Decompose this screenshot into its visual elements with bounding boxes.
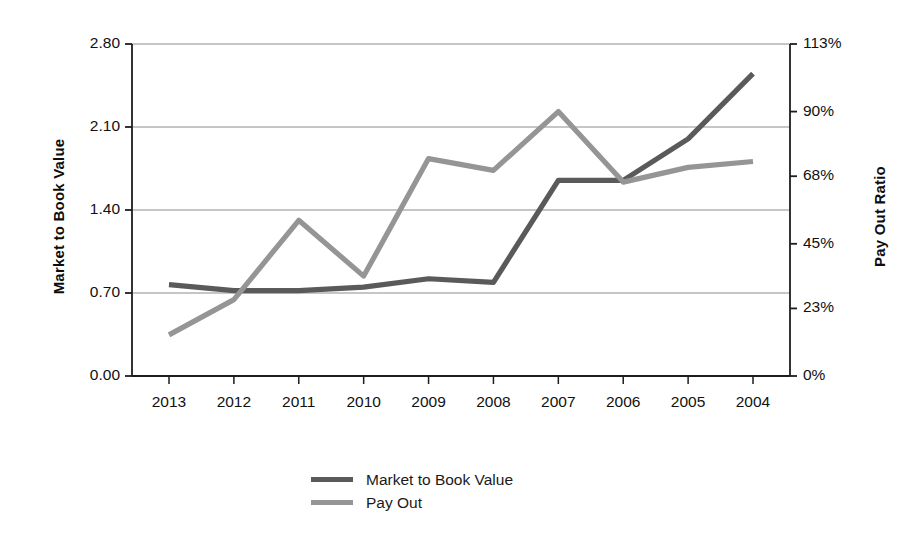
x-axis-tick-label: 2008 [463,393,523,411]
series-line-market-to-book-value [169,74,753,291]
y-axis-left-tick-label: 2.10 [58,117,120,135]
y-axis-right-tick-label: 45% [803,234,865,252]
x-axis-tick-label: 2013 [139,393,199,411]
y-axis-right-tick-label: 113% [803,34,865,52]
legend-swatch-icon [311,477,353,482]
y-axis-left-tick-label: 0.00 [58,366,120,384]
x-axis-tick-label: 2009 [399,393,459,411]
x-axis-tick-label: 2005 [658,393,718,411]
legend-item[interactable]: Market to Book Value [311,468,513,491]
chart-container: Market to Book Value Pay Out Ratio 0.000… [0,0,908,549]
y-axis-left-tick-label: 2.80 [58,34,120,52]
x-axis-tick-label: 2012 [204,393,264,411]
x-axis-tick-label: 2010 [334,393,394,411]
series-line-pay-out [169,112,753,335]
plot-area [0,0,908,549]
y-axis-left-tick-label: 0.70 [58,283,120,301]
x-axis-tick-label: 2004 [723,393,783,411]
legend-swatch-icon [311,500,353,505]
chart-legend: Market to Book ValuePay Out [311,468,513,514]
legend-item[interactable]: Pay Out [311,491,513,514]
x-axis-tick-label: 2011 [269,393,329,411]
y-axis-left-tick-label: 1.40 [58,200,120,218]
y-axis-right-tick-label: 23% [803,298,865,316]
legend-label: Market to Book Value [366,471,513,489]
y-axis-right-tick-label: 90% [803,102,865,120]
x-axis-tick-label: 2006 [593,393,653,411]
y-axis-right-tick-label: 68% [803,166,865,184]
legend-label: Pay Out [366,494,422,512]
y-axis-right-tick-label: 0% [803,366,865,384]
x-axis-tick-label: 2007 [528,393,588,411]
